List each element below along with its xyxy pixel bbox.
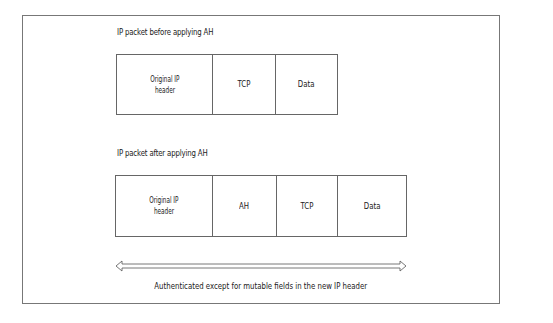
field-label: header (154, 85, 174, 96)
field-data: Data (275, 55, 337, 114)
field-label: TCP (238, 79, 251, 90)
field-label: header (154, 206, 174, 217)
after-title: IP packet after applying AH (117, 148, 207, 158)
field-tcp: TCP (276, 176, 337, 236)
field-label: Data (298, 79, 315, 90)
packet-before: Original IPheader TCP Data (116, 54, 338, 115)
field-data: Data (337, 176, 406, 236)
field-label: Data (364, 201, 381, 212)
field-label: AH (239, 201, 249, 212)
caption-text: Authenticated except for mutable fields … (155, 281, 368, 291)
arrow-caption: Authenticated except for mutable fields … (116, 281, 406, 291)
field-label: TCP (301, 201, 314, 212)
field-tcp: TCP (212, 55, 275, 114)
before-title: IP packet before applying AH (117, 27, 213, 37)
field-original-ip-header: Original IPheader (116, 176, 212, 236)
field-label: Original IP (150, 74, 179, 85)
field-label: Original IP (149, 195, 178, 206)
field-ah: AH (212, 176, 276, 236)
field-original-ip-header: Original IPheader (117, 55, 212, 114)
double-arrow-icon (114, 260, 408, 272)
packet-after: Original IPheader AH TCP Data (115, 175, 407, 237)
